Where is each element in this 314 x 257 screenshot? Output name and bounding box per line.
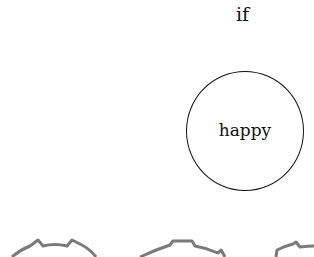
gear-icon	[12, 240, 96, 257]
diagram-canvas: if happy	[0, 0, 314, 257]
condition-label: if	[236, 2, 249, 26]
happy-node: happy	[186, 71, 304, 191]
gear-icon	[140, 241, 225, 257]
node-label: happy	[219, 120, 271, 140]
gear-icon	[276, 242, 314, 257]
